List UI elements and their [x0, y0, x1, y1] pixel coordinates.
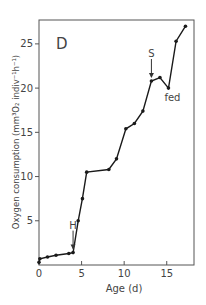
x-axis-ticks: 051015: [36, 261, 173, 279]
annotation-label: fed: [164, 92, 180, 103]
data-point: [81, 197, 85, 201]
annotation-label: S: [148, 48, 154, 59]
data-point: [124, 127, 128, 131]
data-point: [115, 157, 119, 161]
annotations: HSfed: [69, 48, 180, 250]
y-axis-ticks: 510152025: [20, 38, 39, 226]
data-series-line: [39, 26, 186, 262]
y-tick-label: 5: [27, 215, 33, 226]
data-point: [76, 219, 80, 223]
panel-label: D: [56, 35, 68, 53]
data-point: [38, 257, 42, 261]
data-point: [37, 261, 41, 265]
x-tick-label: 10: [118, 268, 131, 279]
data-point: [133, 122, 137, 126]
data-point: [141, 109, 145, 113]
data-point: [85, 170, 89, 174]
data-point: [158, 76, 162, 80]
data-point: [174, 39, 178, 43]
arrowhead-icon: [149, 73, 154, 78]
x-tick-label: 5: [78, 268, 84, 279]
data-point: [150, 79, 154, 83]
chart: 510152025 051015 D Age (d) Oxygen consum…: [0, 0, 206, 305]
arrowhead-icon: [71, 245, 76, 250]
data-point: [167, 86, 171, 90]
y-tick-label: 25: [20, 38, 33, 49]
x-axis-label: Age (d): [106, 283, 143, 294]
x-tick-label: 15: [160, 268, 173, 279]
y-axis-label: Oxygen consumption (mm³O₂ indiv⁻¹h⁻¹): [11, 55, 21, 229]
annotation-label: H: [69, 220, 77, 231]
data-point: [54, 253, 58, 257]
data-point: [46, 255, 50, 259]
data-points: [37, 24, 187, 264]
data-point: [71, 251, 75, 255]
y-tick-label: 10: [20, 171, 33, 182]
data-point: [67, 252, 71, 256]
data-point: [184, 24, 188, 28]
y-tick-label: 20: [20, 83, 33, 94]
plot-frame: [39, 20, 194, 265]
x-tick-label: 0: [36, 268, 42, 279]
data-point: [107, 168, 111, 172]
y-tick-label: 15: [20, 127, 33, 138]
